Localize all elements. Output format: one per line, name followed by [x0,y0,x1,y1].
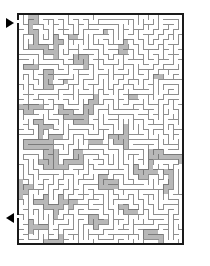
exit-arrow-icon [6,213,14,223]
entrance-arrow-icon [6,18,14,28]
maze-page [0,0,210,266]
maze-grid[interactable] [0,0,210,266]
